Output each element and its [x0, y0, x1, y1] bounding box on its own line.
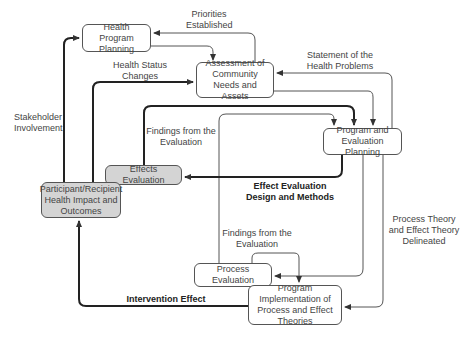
label-findings-effects: Findings from the Evaluation — [146, 126, 216, 148]
label-priorities-established: Priorities Established — [186, 9, 232, 31]
connector-lines — [0, 0, 476, 338]
node-label: Program Implementation of Process and Ef… — [251, 283, 339, 327]
label-health-status-changes: Health Status Changes — [112, 60, 168, 82]
label-statement-health-problems: Statement of the Health Problems — [300, 50, 380, 72]
label-stakeholder-involvement: Stakeholder Involvement — [14, 112, 58, 134]
node-program-evaluation-planning: Program and Evaluation Planning — [323, 128, 402, 155]
node-program-implementation: Program Implementation of Process and Ef… — [248, 285, 342, 325]
node-health-program-planning: Health Program Planning — [82, 24, 151, 52]
node-label: Participant/Recipient Health Impact and … — [40, 184, 123, 217]
node-label: Health Program Planning — [85, 22, 148, 55]
node-label: Program and Evaluation Planning — [326, 125, 399, 158]
node-assessment: Assessment of Community Needs and Assets — [196, 62, 274, 98]
label-process-theory: Process Theory and Effect Theory Delinea… — [386, 214, 462, 247]
label-intervention-effect: Intervention Effect — [126, 294, 206, 305]
node-participant-outcomes: Participant/Recipient Health Impact and … — [41, 182, 121, 218]
label-findings-process: Findings from the Evaluation — [222, 228, 292, 250]
label-effect-evaluation-design: Effect Evaluation Design and Methods — [240, 181, 340, 203]
node-label: Assessment of Community Needs and Assets — [199, 58, 271, 102]
